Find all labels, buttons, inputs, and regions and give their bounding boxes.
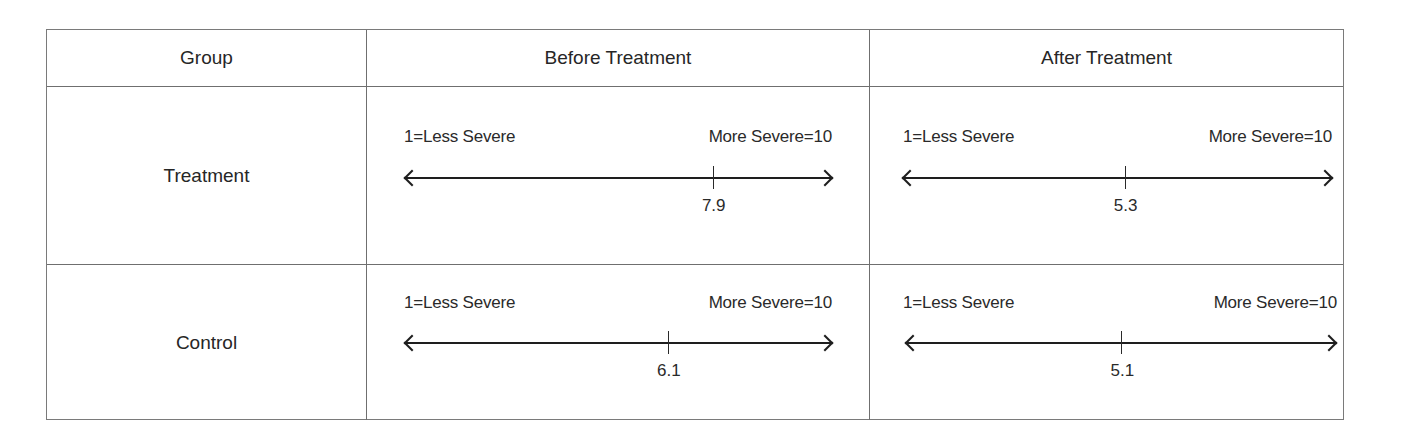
scale-left-label: 1=Less Severe — [404, 127, 515, 147]
scale-left-label: 1=Less Severe — [404, 293, 515, 313]
arrow-right-icon — [817, 170, 834, 187]
scale-right-label: More Severe=10 — [709, 293, 832, 313]
scale-right-label: More Severe=10 — [1214, 293, 1337, 313]
axis-line — [405, 177, 832, 179]
arrow-right-icon — [1321, 335, 1338, 352]
header-after-label: After Treatment — [870, 47, 1343, 69]
value-tick — [1121, 331, 1122, 354]
group-label: Control — [47, 332, 366, 354]
header-group-label: Group — [47, 47, 366, 69]
header-cell-before: Before Treatment — [367, 30, 870, 86]
scale-right-label: More Severe=10 — [709, 127, 832, 147]
value-label: 7.9 — [702, 196, 726, 216]
value-tick — [1125, 166, 1126, 189]
value-tick — [713, 166, 714, 189]
arrow-left-icon — [905, 335, 922, 352]
header-cell-after: After Treatment — [870, 30, 1343, 86]
value-label: 6.1 — [657, 361, 681, 381]
header-row: Group Before Treatment After Treatment — [47, 30, 1343, 87]
severity-scale: 1=Less Severe More Severe=10 5.3 — [870, 87, 1343, 264]
after-scale-cell: 1=Less Severe More Severe=10 5.3 — [870, 87, 1343, 264]
arrow-left-icon — [404, 335, 421, 352]
axis-line — [405, 342, 832, 344]
severity-scale: 1=Less Severe More Severe=10 5.1 — [870, 265, 1343, 420]
before-scale-cell: 1=Less Severe More Severe=10 7.9 — [367, 87, 870, 264]
after-scale-cell: 1=Less Severe More Severe=10 5.1 — [870, 265, 1343, 420]
axis-line — [903, 177, 1332, 179]
group-cell: Control — [47, 265, 367, 420]
arrow-right-icon — [817, 335, 834, 352]
arrow-left-icon — [404, 170, 421, 187]
scale-left-label: 1=Less Severe — [903, 293, 1014, 313]
severity-table: Group Before Treatment After Treatment T… — [46, 29, 1344, 420]
group-label: Treatment — [47, 165, 366, 187]
severity-scale: 1=Less Severe More Severe=10 6.1 — [367, 265, 869, 420]
before-scale-cell: 1=Less Severe More Severe=10 6.1 — [367, 265, 870, 420]
severity-scale: 1=Less Severe More Severe=10 7.9 — [367, 87, 869, 264]
value-label: 5.1 — [1110, 361, 1134, 381]
header-cell-group: Group — [47, 30, 367, 86]
arrow-right-icon — [1317, 170, 1334, 187]
table-row-control: Control 1=Less Severe More Severe=10 6.1… — [47, 265, 1343, 420]
scale-left-label: 1=Less Severe — [903, 127, 1014, 147]
arrow-left-icon — [902, 170, 919, 187]
header-before-label: Before Treatment — [367, 47, 869, 69]
group-cell: Treatment — [47, 87, 367, 264]
scale-right-label: More Severe=10 — [1209, 127, 1332, 147]
table-row-treatment: Treatment 1=Less Severe More Severe=10 7… — [47, 87, 1343, 265]
value-label: 5.3 — [1114, 196, 1138, 216]
value-tick — [668, 331, 669, 354]
